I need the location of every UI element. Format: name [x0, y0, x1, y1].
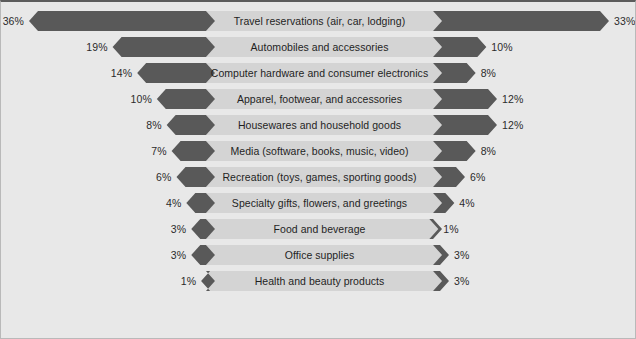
value-label-left: 10% — [131, 86, 152, 112]
row-bars — [1, 216, 636, 242]
chart-row: 14%8%Computer hardware and consumer elec… — [1, 60, 636, 86]
center-band — [206, 219, 442, 239]
row-bars — [1, 112, 636, 138]
row-bars — [1, 268, 636, 294]
value-label-right: 8% — [481, 138, 496, 164]
chart-row: 36%33%Travel reservations (air, car, lod… — [1, 8, 636, 34]
bar-left — [167, 115, 215, 135]
bar-right — [433, 89, 497, 109]
value-label-right: 10% — [491, 34, 512, 60]
center-band — [206, 271, 442, 291]
value-label-left: 3% — [171, 216, 186, 242]
chart-container: 36%33%Travel reservations (air, car, lod… — [0, 0, 636, 339]
chart-rows: 36%33%Travel reservations (air, car, lod… — [1, 8, 636, 294]
value-label-right: 33% — [614, 8, 635, 34]
chart-row: 1%3%Health and beauty products — [1, 268, 636, 294]
value-label-right: 12% — [502, 112, 523, 138]
chart-row: 7%8%Media (software, books, music, video… — [1, 138, 636, 164]
value-label-right: 8% — [481, 60, 496, 86]
value-label-right: 4% — [459, 190, 474, 216]
center-band — [206, 11, 442, 31]
center-band — [206, 167, 442, 187]
center-band — [206, 89, 442, 109]
center-band — [206, 63, 442, 83]
row-bars — [1, 8, 636, 34]
value-label-left: 6% — [156, 164, 171, 190]
row-bars — [1, 242, 636, 268]
value-label-right: 3% — [454, 242, 469, 268]
bar-left — [137, 63, 215, 83]
chart-row: 6%6%Recreation (toys, games, sporting go… — [1, 164, 636, 190]
center-band — [206, 245, 442, 265]
value-label-left: 7% — [151, 138, 166, 164]
chart-row: 10%12%Apparel, footwear, and accessories — [1, 86, 636, 112]
center-band — [206, 193, 442, 213]
bar-right — [433, 11, 609, 31]
value-label-right: 3% — [454, 268, 469, 294]
value-label-right: 12% — [502, 86, 523, 112]
chart-row: 3%3%Office supplies — [1, 242, 636, 268]
chart-row: 8%12%Housewares and household goods — [1, 112, 636, 138]
value-label-right: 1% — [443, 216, 458, 242]
center-band — [206, 37, 442, 57]
center-band — [206, 115, 442, 135]
center-band — [206, 141, 442, 161]
bar-left — [157, 89, 215, 109]
chart-row: 3%1%Food and beverage — [1, 216, 636, 242]
bar-left — [172, 141, 215, 161]
bar-left — [29, 11, 215, 31]
bar-right — [433, 115, 497, 135]
row-bars — [1, 164, 636, 190]
value-label-right: 6% — [470, 164, 485, 190]
bar-left — [113, 37, 215, 57]
value-label-left: 36% — [3, 8, 24, 34]
value-label-left: 19% — [86, 34, 107, 60]
chart-row: 4%4%Specialty gifts, flowers, and greeti… — [1, 190, 636, 216]
value-label-left: 8% — [146, 112, 161, 138]
row-bars — [1, 138, 636, 164]
value-label-left: 4% — [166, 190, 181, 216]
value-label-left: 14% — [111, 60, 132, 86]
chart-row: 19%10%Automobiles and accessories — [1, 34, 636, 60]
value-label-left: 3% — [171, 242, 186, 268]
row-bars — [1, 190, 636, 216]
value-label-left: 1% — [181, 268, 196, 294]
row-bars — [1, 60, 636, 86]
row-bars — [1, 86, 636, 112]
